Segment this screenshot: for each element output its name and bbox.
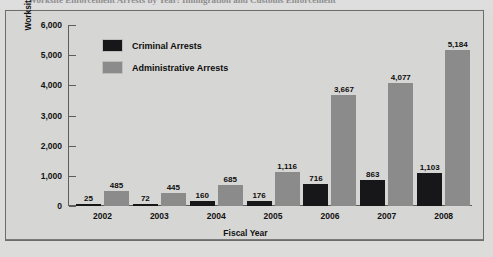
- bar-value-label: 445: [167, 183, 180, 192]
- bar-administrative: 445: [161, 193, 186, 206]
- y-tick-label: 2,000: [41, 141, 62, 151]
- y-tick-label: 4,000: [41, 80, 62, 90]
- x-tick-label: 2004: [188, 211, 245, 221]
- chart-frame: Worksite Enforcement Arrests 01,0002,000…: [5, 10, 484, 241]
- y-tick-mark: [69, 206, 76, 207]
- bar-criminal: 25: [76, 204, 101, 206]
- y-axis-title-wrap: Worksite Enforcement Arrests: [10, 25, 26, 205]
- legend-label: Administrative Arrests: [132, 63, 228, 73]
- chart-page: Worksite Enforcement Arrests by Year: Im…: [0, 0, 493, 257]
- bar-value-label: 485: [110, 181, 123, 190]
- bar-criminal: 160: [190, 201, 215, 206]
- bar-criminal: 716: [303, 184, 328, 206]
- chart-legend: Criminal ArrestsAdministrative Arrests: [102, 39, 228, 83]
- bar-criminal: 176: [247, 201, 272, 206]
- legend-label: Criminal Arrests: [132, 41, 202, 51]
- bar-administrative: 685: [218, 185, 243, 206]
- bar-value-label: 3,667: [334, 85, 354, 94]
- bar-value-label: 72: [141, 194, 150, 203]
- bar-administrative: 5,184: [445, 50, 470, 206]
- bar-group: 1761,1162005: [245, 25, 302, 206]
- bar-group: 1,1035,1842008: [415, 25, 472, 206]
- document-title: Worksite Enforcement Arrests by Year: Im…: [28, 0, 336, 5]
- x-tick-label: 2006: [301, 211, 358, 221]
- bar-value-label: 685: [224, 175, 237, 184]
- bar-value-label: 25: [84, 194, 93, 203]
- y-tick-label: 5,000: [41, 50, 62, 60]
- y-tick-label: 6,000: [41, 20, 62, 30]
- bar-administrative: 1,116: [275, 172, 300, 206]
- legend-item: Criminal Arrests: [102, 39, 228, 52]
- x-tick-label: 2008: [415, 211, 472, 221]
- x-tick-label: 2007: [358, 211, 415, 221]
- bar-administrative: 485: [104, 191, 129, 206]
- y-tick-label: 0: [57, 201, 62, 211]
- y-axis-title: Worksite Enforcement Arrests: [23, 0, 37, 51]
- x-axis-title: Fiscal Year: [6, 228, 485, 238]
- bar-administrative: 3,667: [331, 95, 356, 206]
- y-tick-label: 1,000: [41, 171, 62, 181]
- x-tick-label: 2005: [245, 211, 302, 221]
- bar-value-label: 863: [366, 170, 379, 179]
- x-tick-label: 2003: [131, 211, 188, 221]
- legend-swatch: [102, 39, 123, 52]
- x-tick-label: 2002: [74, 211, 131, 221]
- bar-criminal: 1,103: [417, 173, 442, 206]
- bar-administrative: 4,077: [388, 83, 413, 206]
- bar-value-label: 716: [309, 174, 322, 183]
- bar-group: 7163,6672006: [301, 25, 358, 206]
- legend-swatch: [102, 61, 123, 74]
- bar-value-label: 5,184: [448, 40, 468, 49]
- y-tick-label: 3,000: [41, 111, 62, 121]
- bar-value-label: 160: [196, 191, 209, 200]
- bar-value-label: 4,077: [391, 73, 411, 82]
- bar-value-label: 176: [252, 191, 265, 200]
- legend-item: Administrative Arrests: [102, 61, 228, 74]
- document-title-strip: Worksite Enforcement Arrests by Year: Im…: [0, 0, 493, 9]
- bar-criminal: 72: [133, 204, 158, 206]
- bar-value-label: 1,103: [420, 163, 440, 172]
- bar-group: 8634,0772007: [358, 25, 415, 206]
- bar-criminal: 863: [360, 180, 385, 206]
- bar-value-label: 1,116: [277, 162, 297, 171]
